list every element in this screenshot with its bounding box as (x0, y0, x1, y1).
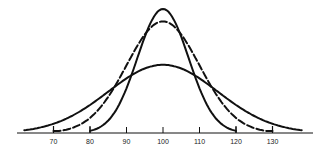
x-tick-label: 80 (86, 138, 94, 145)
x-tick-label: 110 (194, 138, 205, 145)
x-axis-ticks: 708090100110120130 (50, 127, 279, 145)
medium-normal-curve (54, 21, 273, 131)
x-tick-label: 130 (267, 138, 279, 145)
narrow-normal-curve (90, 9, 236, 131)
x-tick-label: 90 (123, 138, 131, 145)
x-tick-label: 120 (230, 138, 242, 145)
curves (24, 9, 301, 133)
x-tick-label: 100 (157, 138, 169, 145)
normal-distribution-chart: 708090100110120130 (0, 0, 329, 154)
x-tick-label: 70 (50, 138, 58, 145)
wide-normal-curve (24, 65, 301, 130)
